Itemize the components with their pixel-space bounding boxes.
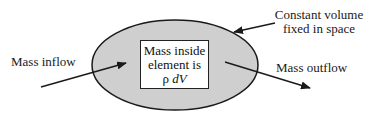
element-box: Mass inside element is ρ dV	[140, 40, 209, 89]
element-line2: element is	[148, 58, 201, 72]
volume-pointer-arrow	[234, 23, 275, 32]
element-line1: Mass inside	[144, 44, 206, 58]
outflow-label: Mass outflow	[276, 61, 347, 75]
dv-symbol: dV	[172, 71, 186, 86]
rho-symbol: ρ	[162, 71, 169, 86]
volume-label-line1: Constant volume	[274, 8, 364, 22]
inflow-label: Mass inflow	[11, 55, 76, 69]
volume-label-line2: fixed in space	[274, 22, 364, 36]
volume-label: Constant volume fixed in space	[274, 8, 364, 36]
element-formula: ρ dV	[162, 72, 186, 86]
